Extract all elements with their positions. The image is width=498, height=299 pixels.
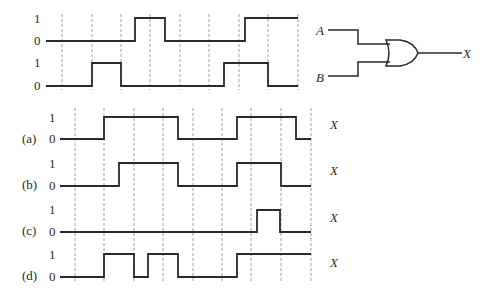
option-a-level-0: 0 [49, 131, 56, 146]
waveform-b [46, 63, 298, 86]
option-a[interactable]: (a) 1 0 X [22, 110, 339, 146]
option-d-waveform [60, 254, 311, 277]
input-waveforms: 1 0 1 0 [34, 11, 298, 93]
level-0-label-a: 0 [34, 33, 41, 48]
option-a-waveform [60, 117, 311, 139]
wire-b [328, 62, 390, 76]
or-gate-symbol [386, 40, 418, 66]
option-a-level-1: 1 [49, 110, 56, 125]
or-gate-circuit: A B X [315, 23, 472, 85]
option-d-x-label: X [329, 255, 339, 270]
level-0-label-b: 0 [34, 78, 41, 93]
option-b-level-1: 1 [49, 156, 56, 171]
top-grid [62, 14, 298, 90]
input-b-label: B [316, 70, 324, 85]
option-a-x-label: X [329, 117, 339, 132]
option-b-x-label: X [329, 163, 339, 178]
input-a-label: A [315, 23, 324, 38]
option-d-label: (d) [22, 268, 37, 283]
option-c-x-label: X [329, 210, 339, 225]
waveform-a [46, 18, 298, 41]
option-a-label: (a) [22, 131, 36, 146]
option-d[interactable]: (d) 1 0 X [22, 247, 339, 284]
option-d-level-1: 1 [49, 247, 56, 262]
timing-diagram: 1 0 1 0 A B X (a) 1 0 X ( [0, 0, 498, 299]
option-c-level-0: 0 [49, 224, 56, 239]
option-b-level-0: 0 [49, 178, 56, 193]
option-c-label: (c) [22, 223, 36, 238]
output-x-label: X [462, 46, 472, 61]
option-c-waveform [60, 210, 311, 232]
option-b-waveform [60, 163, 311, 186]
option-grid [75, 108, 311, 282]
option-d-level-0: 0 [49, 269, 56, 284]
level-1-label-a: 1 [34, 11, 41, 26]
option-c[interactable]: (c) 1 0 X [22, 202, 339, 239]
option-b-label: (b) [22, 177, 37, 192]
level-1-label-b: 1 [34, 55, 41, 70]
option-c-level-1: 1 [49, 202, 56, 217]
wire-a [328, 30, 390, 44]
option-b[interactable]: (b) 1 0 X [22, 156, 339, 193]
